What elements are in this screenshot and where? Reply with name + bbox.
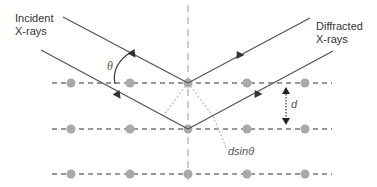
incident-label-1: Incident (15, 12, 54, 24)
path-difference-label: dsinθ (228, 145, 254, 157)
diffracted-label-2: X-rays (316, 33, 348, 45)
path-difference-construction (163, 83, 227, 150)
incident-label-2: X-rays (15, 25, 47, 37)
diffracted-label-1: Diffracted (316, 20, 363, 32)
d-label: d (291, 98, 298, 110)
bragg-diagram: Incident X-rays Diffracted X-rays θ d ds… (0, 0, 377, 187)
theta-label: θ (107, 59, 113, 73)
d-spacing-arrow (282, 87, 290, 125)
